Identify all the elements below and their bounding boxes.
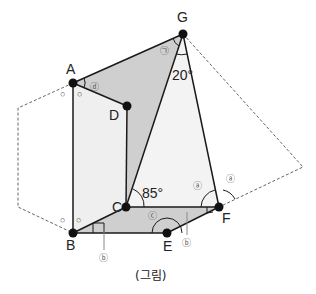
angle-G-value: 20°	[172, 67, 193, 83]
label-C: C	[112, 199, 122, 215]
equal-mark-3: ○	[60, 215, 65, 225]
label-F: F	[222, 210, 231, 226]
point-A	[69, 79, 78, 88]
angle-C-value: 85°	[142, 185, 163, 201]
point-G	[179, 30, 188, 39]
label-D: D	[109, 107, 119, 123]
marker-b1: ⓑ	[99, 253, 108, 263]
point-C	[122, 203, 131, 212]
label-B: B	[66, 237, 75, 253]
marker-c: ⓒ	[148, 211, 157, 221]
label-G: G	[177, 9, 188, 25]
point-D	[123, 102, 132, 111]
marker-b2: ⓑ	[182, 238, 191, 248]
label-E: E	[163, 238, 172, 254]
figure-caption: (그림)	[135, 269, 166, 283]
equal-mark-2: ○	[77, 89, 82, 99]
marker-giyeok: ㉠	[160, 46, 169, 56]
point-E	[163, 229, 172, 238]
marker-d: ⓓ	[90, 82, 99, 92]
equal-mark-4: ○	[76, 215, 81, 225]
equal-mark-1: ○	[60, 89, 65, 99]
marker-a2: ⓐ	[226, 174, 235, 184]
dashed-left-hexagon	[18, 83, 73, 233]
label-A: A	[66, 61, 76, 77]
marker-a1: ⓐ	[193, 181, 202, 191]
geometry-figure: G A D C B E F 20° 85° ㉠ ⓓ ⓐ ⓐ ⓒ ⓑ ⓑ ○ ○ …	[0, 0, 316, 294]
